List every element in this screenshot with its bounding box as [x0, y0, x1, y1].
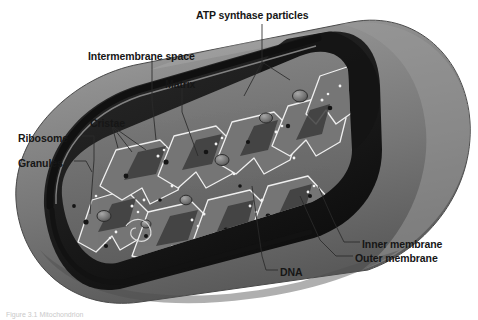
label-atp-synthase-particles: ATP synthase particles: [196, 10, 308, 21]
label-outer-membrane: Outer membrane: [355, 253, 438, 264]
label-inner-membrane: Inner membrane: [362, 239, 442, 250]
label-granules: Granules: [18, 158, 63, 169]
label-intermembrane-space: Intermembrane space: [88, 51, 195, 62]
label-ribosome: Ribosome: [18, 133, 68, 144]
mitochondrion-figure: [0, 0, 478, 320]
label-cristae: Cristae: [90, 118, 125, 129]
label-dna: DNA: [280, 267, 302, 278]
figure-caption: Figure 3.1 Mitochondrion: [6, 311, 83, 318]
label-matrix: Matrix: [165, 79, 195, 90]
